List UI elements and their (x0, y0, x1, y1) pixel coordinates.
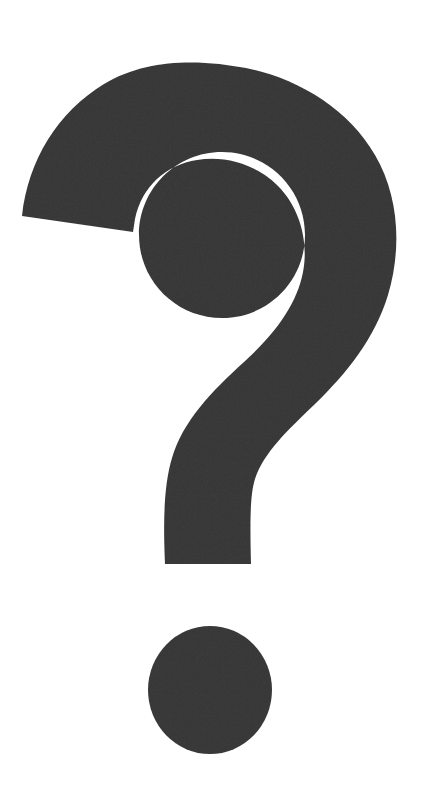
image-canvas: Question mark (0, 0, 434, 786)
question-mark-image: Question mark (0, 0, 434, 786)
